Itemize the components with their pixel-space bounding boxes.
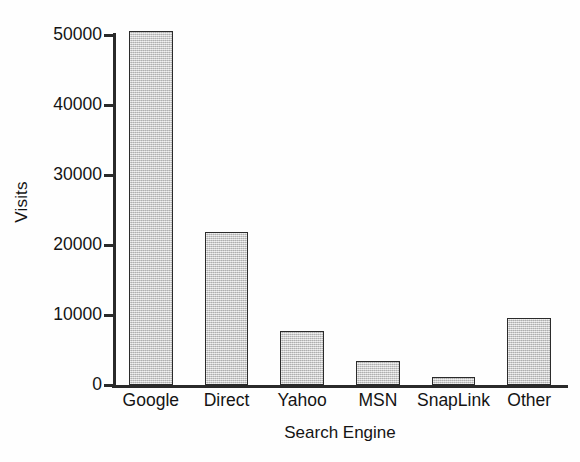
x-axis-line bbox=[112, 385, 568, 388]
y-tick-label: 50000 bbox=[12, 26, 102, 44]
x-tick-label: Other bbox=[479, 391, 579, 410]
y-tick-label: 10000 bbox=[12, 306, 102, 324]
x-axis-label: Search Engine bbox=[113, 423, 567, 443]
y-tick-label: 40000 bbox=[12, 96, 102, 114]
y-tick-label: 20000 bbox=[12, 236, 102, 254]
bar-yahoo bbox=[280, 331, 324, 385]
bar-google bbox=[129, 31, 173, 385]
bar-direct bbox=[205, 232, 249, 385]
bar-chart-figure: Visits 01000020000300004000050000 Google… bbox=[0, 0, 580, 462]
bar-other bbox=[507, 318, 551, 385]
y-axis-tick-labels: 01000020000300004000050000 bbox=[10, 0, 102, 462]
bar-msn bbox=[356, 361, 400, 386]
bar-snaplink bbox=[432, 377, 476, 385]
plot-area bbox=[113, 35, 567, 385]
y-tick-label: 0 bbox=[12, 376, 102, 394]
y-tick-label: 30000 bbox=[12, 166, 102, 184]
